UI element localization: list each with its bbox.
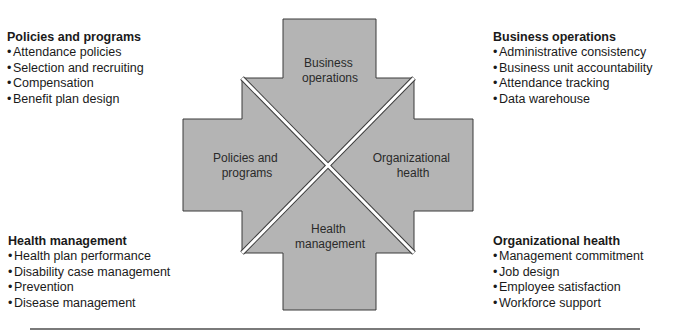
quadrant-label-left: Policies and programs bbox=[213, 151, 281, 180]
quadrant-label-top: Business operations bbox=[302, 56, 358, 85]
list-item: •Management commitment bbox=[493, 249, 644, 265]
block-title: Health management bbox=[8, 233, 170, 249]
bullet-list: •Health plan performance •Disability cas… bbox=[8, 249, 170, 311]
list-item: •Job design bbox=[493, 265, 644, 281]
bullet-list: •Attendance policies •Selection and recr… bbox=[7, 45, 144, 107]
list-item: •Administrative consistency bbox=[493, 45, 653, 61]
list-item: •Benefit plan design bbox=[7, 92, 144, 108]
list-item: •Disability case management bbox=[8, 265, 170, 281]
policies-programs-block: Policies and programs •Attendance polici… bbox=[7, 29, 144, 107]
business-operations-block: Business operations •Administrative cons… bbox=[493, 29, 653, 107]
list-item: •Health plan performance bbox=[8, 249, 170, 265]
list-item: •Disease management bbox=[8, 296, 170, 312]
list-item: •Attendance policies bbox=[7, 45, 144, 61]
list-item: •Business unit accountability bbox=[493, 61, 653, 77]
list-item: •Workforce support bbox=[493, 296, 644, 312]
bullet-list: •Management commitment •Job design •Empl… bbox=[493, 249, 644, 311]
block-title: Policies and programs bbox=[7, 29, 144, 45]
list-item: •Attendance tracking bbox=[493, 76, 653, 92]
health-management-block: Health management •Health plan performan… bbox=[8, 233, 170, 311]
list-item: •Selection and recruiting bbox=[7, 61, 144, 77]
list-item: •Compensation bbox=[7, 76, 144, 92]
organizational-health-block: Organizational health •Management commit… bbox=[493, 233, 644, 311]
bullet-list: •Administrative consistency •Business un… bbox=[493, 45, 653, 107]
list-item: •Prevention bbox=[8, 280, 170, 296]
list-item: •Data warehouse bbox=[493, 92, 653, 108]
list-item: •Employee satisfaction bbox=[493, 280, 644, 296]
block-title: Organizational health bbox=[493, 233, 644, 249]
block-title: Business operations bbox=[493, 29, 653, 45]
